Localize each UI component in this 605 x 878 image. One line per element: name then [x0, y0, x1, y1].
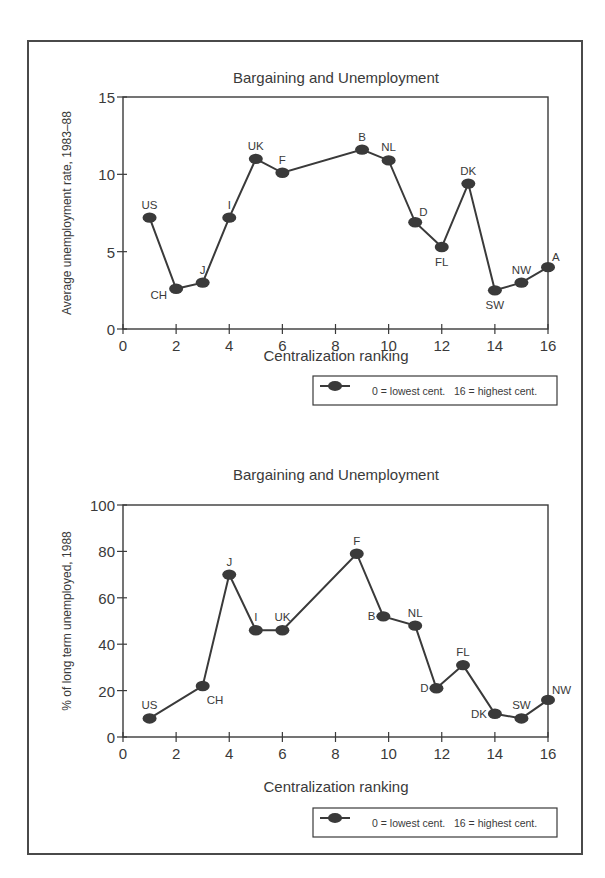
data-point-label: J: [200, 264, 206, 276]
data-point-marker-icon: [408, 620, 422, 630]
y-tick-label: 0: [107, 321, 115, 338]
x-tick-label: 8: [331, 745, 339, 762]
chart-unemployment-rate: Bargaining and Unemployment 024681012141…: [60, 69, 560, 405]
data-point-marker-icon: [435, 242, 449, 252]
data-point-label: A: [552, 251, 560, 263]
data-point-marker-icon: [456, 660, 470, 670]
x-tick-label: 12: [433, 337, 450, 354]
chart-title: Bargaining and Unemployment: [233, 69, 440, 86]
data-point-label: D: [419, 206, 427, 218]
data-point-marker-icon: [249, 154, 263, 164]
data-point-label: NL: [381, 141, 396, 153]
data-point-label: D: [420, 682, 428, 694]
y-tick-label: 10: [98, 166, 115, 183]
data-point-label: F: [353, 535, 360, 547]
data-point-marker-icon: [541, 695, 555, 705]
data-point-label: F: [279, 154, 286, 166]
legend-label: 0 = lowest cent. 16 = highest cent.: [372, 817, 537, 829]
x-tick-label: 12: [433, 745, 450, 762]
chart-title: Bargaining and Unemployment: [233, 466, 440, 483]
data-point-marker-icon: [196, 277, 210, 287]
x-axis-label: Centralization ranking: [263, 347, 408, 364]
figure-canvas: Bargaining and Unemployment 024681012141…: [0, 0, 605, 878]
data-point-label: NW: [512, 264, 531, 276]
data-series: USCHJIUKFBNLDFLDKSWNW: [142, 535, 572, 724]
legend: 0 = lowest cent. 16 = highest cent.: [313, 808, 557, 837]
data-point-marker-icon: [222, 212, 236, 222]
data-point-marker-icon: [488, 285, 502, 295]
data-point-label: FL: [435, 256, 449, 268]
data-point-label: UK: [248, 140, 264, 152]
y-tick-label: 60: [98, 590, 115, 607]
x-tick-label: 0: [119, 337, 127, 354]
data-point-label: J: [226, 556, 232, 568]
x-tick-label: 0: [119, 745, 127, 762]
y-tick-label: 80: [98, 543, 115, 560]
legend-marker-icon: [328, 813, 342, 823]
axes: 0246810121416020406080100: [90, 497, 556, 762]
data-point-marker-icon: [222, 569, 236, 579]
x-tick-label: 10: [380, 745, 397, 762]
y-axis-label: Average unemployment rate, 1983–88: [60, 111, 74, 315]
x-tick-label: 6: [278, 745, 286, 762]
data-point-label: NL: [408, 607, 423, 619]
data-point-label: SW: [486, 299, 505, 311]
chart-long-term-unemployed: Bargaining and Unemployment 024681012141…: [60, 466, 571, 837]
y-tick-label: 5: [107, 244, 115, 261]
data-point-marker-icon: [143, 713, 157, 723]
data-point-label: DK: [460, 165, 476, 177]
legend-marker-icon: [328, 381, 342, 391]
data-point-label: B: [358, 131, 366, 143]
x-axis-label: Centralization ranking: [263, 778, 408, 795]
x-tick-label: 14: [487, 745, 504, 762]
data-point-label: I: [254, 611, 257, 623]
data-point-marker-icon: [461, 178, 475, 188]
data-point-marker-icon: [408, 217, 422, 227]
data-point-marker-icon: [514, 277, 528, 287]
data-point-marker-icon: [350, 549, 364, 559]
data-point-marker-icon: [275, 168, 289, 178]
data-point-marker-icon: [541, 262, 555, 272]
data-point-marker-icon: [382, 155, 396, 165]
data-point-marker-icon: [429, 683, 443, 693]
data-point-marker-icon: [196, 681, 210, 691]
data-point-marker-icon: [169, 284, 183, 294]
data-point-label: FL: [456, 646, 470, 658]
y-axis-label: % of long term unemployed, 1988: [60, 531, 74, 711]
data-point-marker-icon: [514, 713, 528, 723]
data-point-label: CH: [207, 694, 224, 706]
data-point-label: NW: [552, 684, 571, 696]
data-point-label: DK: [471, 708, 487, 720]
y-tick-label: 100: [90, 497, 115, 514]
x-tick-label: 2: [172, 745, 180, 762]
x-tick-label: 16: [540, 337, 557, 354]
legend-label: 0 = lowest cent. 16 = highest cent.: [372, 385, 537, 397]
data-point-marker-icon: [376, 611, 390, 621]
data-point-label: SW: [512, 699, 531, 711]
data-point-marker-icon: [275, 625, 289, 635]
x-tick-label: 4: [225, 745, 233, 762]
y-tick-label: 40: [98, 636, 115, 653]
axes: 0246810121416051015: [98, 89, 556, 354]
x-tick-label: 14: [487, 337, 504, 354]
data-point-label: I: [228, 199, 231, 211]
legend: 0 = lowest cent. 16 = highest cent.: [313, 376, 557, 405]
data-point-marker-icon: [249, 625, 263, 635]
x-tick-label: 2: [172, 337, 180, 354]
y-tick-label: 20: [98, 683, 115, 700]
y-tick-label: 15: [98, 89, 115, 106]
x-tick-label: 4: [225, 337, 233, 354]
data-point-label: US: [142, 199, 158, 211]
data-point-label: B: [368, 610, 376, 622]
y-tick-label: 0: [107, 729, 115, 746]
data-series: USCHJIUKFBNLDFLDKSWNWA: [142, 131, 560, 312]
x-tick-label: 16: [540, 745, 557, 762]
data-point-label: UK: [274, 611, 290, 623]
data-point-marker-icon: [488, 709, 502, 719]
data-point-label: CH: [151, 289, 168, 301]
data-point-marker-icon: [355, 144, 369, 154]
data-point-label: US: [142, 699, 158, 711]
data-point-marker-icon: [143, 212, 157, 222]
